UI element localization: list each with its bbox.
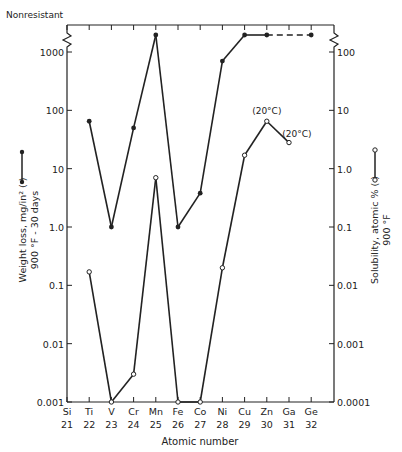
legend-marker-filled-icon: [20, 180, 24, 184]
solubility-point: [87, 270, 91, 274]
y-tick-label-right: 10: [337, 105, 349, 116]
x-tick-number: 24: [128, 419, 140, 430]
x-tick-number: 31: [283, 419, 295, 430]
x-tick-symbol: Cr: [128, 406, 139, 417]
left-axis-title-line2: 900 °F - 30 days: [29, 191, 40, 269]
x-tick-number: 25: [150, 419, 162, 430]
x-tick-number: 28: [216, 419, 228, 430]
x-axis-title: Atomic number: [162, 436, 240, 447]
x-tick-symbol: Fe: [173, 406, 184, 417]
solubility-segment: [245, 121, 267, 155]
y-tick-label-right: 0.01: [337, 280, 358, 291]
axis-ticks: [67, 25, 334, 402]
x-tick-symbol: Zn: [261, 406, 274, 417]
weight-loss-segment: [178, 193, 200, 227]
nonresistant-label: Nonresistant: [6, 10, 64, 20]
weight-loss-segment: [200, 61, 222, 193]
weight-loss-point: [264, 33, 269, 38]
weight-loss-segment: [111, 128, 133, 227]
y-tick-label-left: 0.1: [49, 280, 64, 291]
x-tick-number: 22: [83, 419, 95, 430]
x-tick-number: 27: [194, 419, 206, 430]
weight-loss-point: [242, 33, 247, 38]
right-axis-title-line2: 900 °F: [381, 214, 392, 245]
solubility-segment: [200, 268, 222, 402]
y-tick-label-left: 100: [46, 105, 64, 116]
weight-loss-point: [109, 225, 114, 230]
y-tick-label-right: 100: [337, 47, 355, 58]
weight-loss-point: [309, 33, 314, 38]
legend-marker-open-icon: [373, 178, 377, 182]
solubility-point: [265, 119, 269, 123]
weight-loss-segment: [89, 121, 111, 227]
x-tick-symbol: Ge: [305, 406, 318, 417]
left-axis-break: [63, 25, 71, 402]
weight-loss-point: [87, 119, 92, 124]
x-tick-number: 32: [305, 419, 317, 430]
solubility-point: [131, 372, 135, 376]
x-tick-symbol: Co: [194, 406, 207, 417]
x-tick-symbol: Ni: [218, 406, 228, 417]
temperature-annotation: (20°C): [282, 129, 311, 139]
solubility-point: [176, 400, 180, 404]
x-tick-symbol: V: [108, 406, 115, 417]
weight-loss-segment: [156, 35, 178, 227]
plot-frame: [63, 25, 338, 402]
x-tick-symbol: Cu: [238, 406, 251, 417]
series-group: (20°C)(20°C): [87, 33, 314, 405]
y-tick-label-left: 10: [52, 164, 64, 175]
right-axis-title-line1: Solubility, atomic % ( ): [369, 176, 380, 284]
y-tick-label-right: 1.0: [337, 164, 352, 175]
weight-loss-point: [153, 33, 158, 38]
solubility-point: [242, 153, 246, 157]
y-tick-label-left: 1000: [40, 47, 64, 58]
y-tick-label-right: 0.001: [337, 339, 364, 350]
right-axis-title: Solubility, atomic % ( )900 °F: [369, 176, 392, 284]
weight-loss-point: [176, 225, 181, 230]
left-axis-title: Weight loss, mg/in² ( )900 °F - 30 days: [17, 178, 40, 283]
solubility-segment: [111, 374, 133, 402]
x-tick-symbol: Mn: [149, 406, 163, 417]
x-tick-number: 26: [172, 419, 184, 430]
solubility-segment: [134, 178, 156, 374]
y-tick-label-right: 0.0001: [337, 397, 370, 408]
y-tick-label-right: 0.1: [337, 222, 352, 233]
weight-loss-point: [131, 125, 136, 130]
solubility-segment: [89, 272, 111, 402]
solubility-segment: [156, 178, 178, 402]
chart: (20°C)(20°C) Si21Ti22V23Cr24Mn25Fe26Co27…: [0, 0, 402, 452]
temperature-annotation: (20°C): [252, 106, 281, 116]
solubility-point: [220, 266, 224, 270]
weight-loss-segment: [134, 35, 156, 128]
x-tick-number: 30: [261, 419, 273, 430]
weight-loss-point: [198, 191, 203, 196]
x-tick-symbol: Ti: [84, 406, 93, 417]
x-tick-number: 23: [105, 419, 117, 430]
solubility-point: [109, 400, 113, 404]
x-tick-symbol: Ga: [282, 406, 295, 417]
solubility-segment: [222, 155, 244, 268]
x-tick-number: 29: [239, 419, 251, 430]
legend-marker-open-icon: [373, 148, 377, 152]
legend-marker-filled-icon: [20, 150, 24, 154]
y-tick-label-left: 0.01: [43, 339, 64, 350]
left-axis-title-line1: Weight loss, mg/in² ( ): [17, 178, 28, 283]
x-tick-number: 21: [61, 419, 73, 430]
y-tick-label-left: 1.0: [49, 222, 64, 233]
solubility-point: [287, 140, 291, 144]
y-tick-label-left: 0.001: [37, 397, 64, 408]
weight-loss-segment: [222, 35, 244, 61]
weight-loss-point: [220, 59, 225, 64]
solubility-point: [154, 176, 158, 180]
solubility-point: [198, 400, 202, 404]
